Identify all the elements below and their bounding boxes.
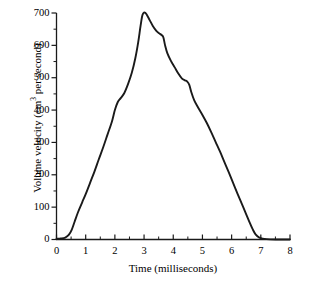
x-tick-label: 1 [78,246,94,257]
x-tick-label: 4 [165,246,181,257]
x-tick-label: 0 [49,246,65,257]
x-axis-title: Time (milliseconds) [56,262,290,274]
y-axis-title-superscript: 3 [29,97,38,101]
x-tick-label: 7 [253,246,269,257]
chart-figure: 0100200300400500600700 012345678 Time (m… [0,0,313,281]
axes [56,13,290,240]
y-axis-title-main: Volume velocity (cm [31,101,43,193]
x-tick-label: 8 [282,246,298,257]
y-axis-title: Volume velocity (cm3 per second) [31,18,43,218]
x-tick-label: 6 [224,246,240,257]
x-tick-label: 5 [194,246,210,257]
x-tick-label: 3 [136,246,152,257]
y-tick-label: 700 [24,8,50,19]
data-line-glottal-volume-velocity [57,13,291,240]
y-axis-title-tail: per second) [31,43,43,97]
x-tick-label: 2 [107,246,123,257]
y-tick-label: 0 [24,234,50,245]
x-axis-major-ticks [57,235,291,240]
